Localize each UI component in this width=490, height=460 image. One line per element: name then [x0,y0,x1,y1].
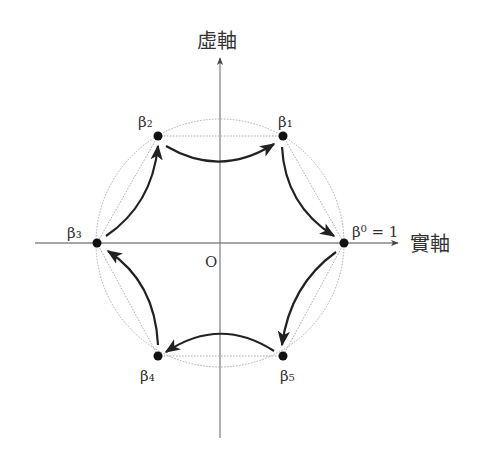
point-beta4 [154,352,163,361]
point-beta3 [93,239,102,248]
label-beta2: β₂ [138,113,153,131]
complex-plane-diagram: 虛軸 實軸 O β⁰ = 1 β₁ β₂ β₃ β₄ β₅ [0,0,490,460]
label-beta1: β₁ [278,113,293,131]
rotation-arrows [106,144,336,352]
real-axis-label: 實軸 [410,232,450,256]
point-beta2 [154,132,163,141]
origin-label: O [205,253,217,271]
arrow-beta1-to-beta0 [282,147,334,236]
label-beta3: β₃ [67,224,82,242]
arrow-beta3-to-beta2 [106,146,158,236]
label-beta5: β₅ [280,367,295,385]
imaginary-axis-label: 虛軸 [197,29,237,53]
point-beta5 [279,352,288,361]
label-beta4: β₄ [140,367,155,385]
point-beta1 [279,132,288,141]
arrow-beta0-to-beta5 [282,252,336,345]
point-beta0 [340,239,349,248]
label-beta0: β⁰ = 1 [352,223,398,241]
